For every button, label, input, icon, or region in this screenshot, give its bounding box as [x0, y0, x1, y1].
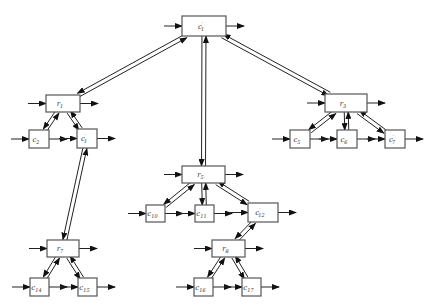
node-c11: c11 — [195, 205, 214, 222]
node-c1p: c′1 — [77, 129, 97, 148]
edge-r5-c10 — [164, 181, 195, 207]
node-c15: c15 — [78, 278, 97, 296]
edge-r3-c7p — [357, 110, 386, 133]
edge-r8-c17 — [232, 256, 248, 279]
arrow-up — [359, 110, 386, 130]
node-r8: r8 — [212, 240, 245, 257]
arrow-up — [79, 38, 186, 97]
arrow-down — [78, 34, 185, 93]
arrow-up — [218, 181, 249, 201]
node-r1: r1 — [46, 95, 80, 112]
edge-r1-c1p — [67, 111, 82, 130]
arrow-down — [164, 181, 192, 204]
edge-r7-c15 — [67, 256, 84, 279]
node-c6: c6 — [337, 130, 357, 148]
arrow-up — [70, 111, 82, 128]
edge-c1p_top-r1 — [78, 34, 187, 97]
node-c1p_top: c′1 — [182, 16, 226, 36]
edge-r5-c12p — [216, 181, 249, 204]
arrow-down — [309, 110, 334, 129]
arrow-down — [357, 114, 384, 134]
node-c2: c2 — [29, 130, 49, 148]
hierarchical-diagram: c′1r1r3r5c2c′1c5c6c′7c10c11c′12r7r8c14c1… — [0, 0, 424, 307]
edge-r3-c5 — [309, 110, 336, 132]
arrow-down — [202, 183, 203, 205]
node-r7: r7 — [47, 240, 79, 257]
node-c16: c16 — [194, 278, 213, 296]
arrow-down — [67, 113, 79, 130]
node-c12p: c′12 — [248, 203, 278, 222]
arrow-up — [311, 114, 336, 133]
node-c17: c17 — [242, 278, 261, 296]
node-c7p: c′7 — [385, 130, 405, 148]
arrow-down — [221, 38, 328, 96]
edge-c1p_top-r5 — [202, 36, 206, 166]
node-r3: r3 — [325, 94, 367, 112]
arrow-down — [63, 148, 83, 240]
arrow-down — [216, 185, 247, 205]
arrow-up — [206, 183, 207, 205]
edge-c1p_top-r3 — [221, 34, 330, 96]
edge-r5-c11 — [202, 183, 207, 205]
arrow-up — [223, 34, 330, 92]
arrow-up — [348, 112, 349, 130]
node-c5: c5 — [290, 130, 310, 148]
node-r5: r5 — [182, 166, 225, 183]
edge-c1p-r7 — [63, 148, 87, 241]
edge-r1-c2 — [43, 111, 58, 131]
arrow-up — [67, 148, 87, 240]
node-c10: c10 — [146, 205, 165, 222]
edge-c12p-r8 — [235, 221, 255, 242]
node-c14: c14 — [30, 278, 49, 296]
edge-r3-c6 — [344, 112, 348, 130]
edge-r8-c16 — [208, 256, 225, 279]
arrow-up — [166, 185, 194, 208]
arrow-down — [344, 112, 345, 130]
edge-r7-c14 — [43, 256, 59, 279]
